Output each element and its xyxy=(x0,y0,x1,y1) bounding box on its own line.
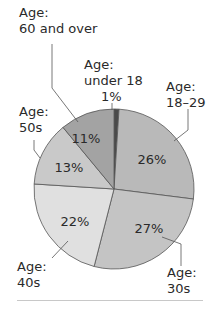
label-18-29-line1: Age: xyxy=(166,79,206,95)
label-40s-line2: 40s xyxy=(17,275,47,291)
pct-18-29: 26% xyxy=(138,153,167,167)
label-60-line1: Age: xyxy=(19,5,97,21)
label-30s-line1: Age: xyxy=(167,265,197,281)
leader-60-and-over xyxy=(52,44,78,122)
label-under18-line2: under 18 xyxy=(84,73,143,89)
label-under18-line1: Age: xyxy=(84,57,143,73)
label-60-line2: 60 and over xyxy=(19,21,97,37)
leader-18-29 xyxy=(174,109,188,141)
label-50s-line2: 50s xyxy=(19,120,49,136)
label-18-29: Age: 18–29 xyxy=(166,79,206,111)
pie-slices xyxy=(34,109,194,269)
label-50s-line1: Age: xyxy=(19,104,49,120)
pct-40s: 22% xyxy=(61,215,90,229)
leader-50s xyxy=(34,140,40,158)
label-30s-line2: 30s xyxy=(167,281,197,297)
label-40s: Age: 40s xyxy=(17,259,47,291)
pct-30s: 27% xyxy=(135,222,164,236)
pct-50s: 13% xyxy=(55,161,84,175)
pct-60-and-over: 11% xyxy=(72,132,101,146)
label-50s: Age: 50s xyxy=(19,104,49,136)
label-under-18: Age: under 18 1% xyxy=(84,57,143,105)
label-18-29-line2: 18–29 xyxy=(166,95,206,111)
label-30s: Age: 30s xyxy=(167,265,197,297)
label-40s-line1: Age: xyxy=(17,259,47,275)
label-60-and-over: Age: 60 and over xyxy=(19,5,97,37)
bottom-divider xyxy=(17,300,203,301)
label-under18-pct: 1% xyxy=(84,89,143,105)
